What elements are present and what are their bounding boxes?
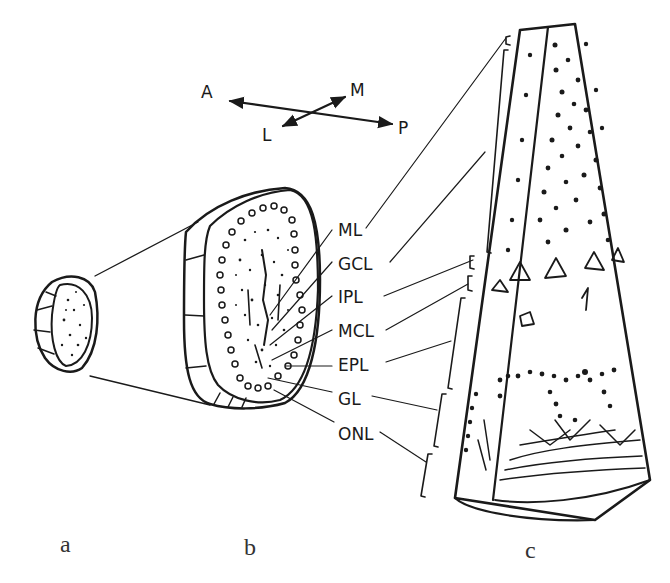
label-onl: ONL — [338, 424, 374, 444]
label-mcl: MCL — [338, 321, 375, 341]
label-epl: EPL — [338, 355, 369, 375]
panel-label-c: c — [525, 537, 536, 563]
label-leaders-b — [268, 230, 334, 422]
projection-line-a-b-top — [95, 222, 198, 276]
panel-a-bulb-drawing — [34, 277, 97, 372]
panel-c-layer-wedge — [455, 24, 650, 520]
mitral-cells — [492, 248, 624, 326]
label-gl: GL — [338, 389, 361, 409]
label-gcl: GCL — [338, 254, 373, 274]
panel-label-b: b — [244, 534, 256, 560]
axis-label-anterior: A — [201, 82, 213, 102]
label-ipl: IPL — [338, 287, 363, 307]
label-leaders-c — [366, 38, 506, 462]
figure-canvas: A P L M — [0, 0, 670, 583]
layer-labels: ML GCL IPL MCL EPL GL ONL — [338, 220, 375, 444]
nerve-fibers — [478, 420, 645, 480]
label-ml: ML — [338, 220, 363, 240]
axis-label-lateral: L — [262, 125, 272, 145]
axis-label-medial: M — [350, 80, 365, 100]
panel-label-a: a — [60, 531, 71, 557]
lateral-medial-arrow — [283, 97, 345, 126]
projection-line-a-b-bottom — [90, 376, 210, 405]
diagram-svg: A P L M — [0, 0, 670, 583]
orientation-compass: A P L M — [201, 80, 408, 145]
axis-label-posterior: P — [398, 118, 408, 138]
central-core — [262, 250, 268, 345]
